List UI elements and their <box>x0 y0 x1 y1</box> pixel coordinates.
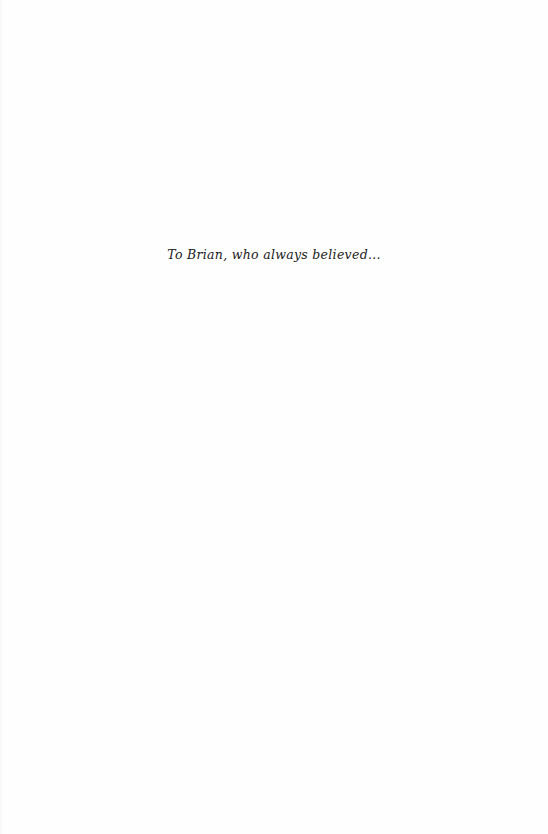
dedication-text: To Brian, who always believed... <box>0 247 548 263</box>
book-page: To Brian, who always believed... <box>0 0 548 834</box>
scan-edge-shadow <box>0 0 3 834</box>
